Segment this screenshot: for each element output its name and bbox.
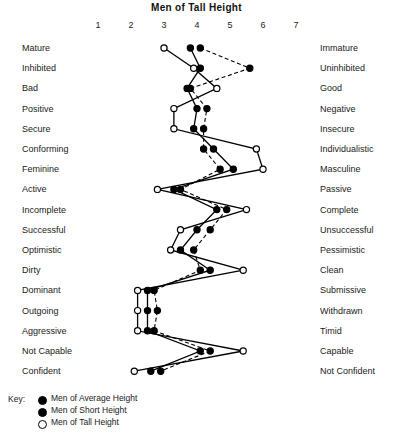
data-point-open (135, 287, 141, 293)
data-point-open (191, 65, 197, 71)
data-point-filled (171, 186, 177, 192)
legend-marker-filled-circle-short-icon (38, 408, 47, 417)
data-point-open (161, 45, 167, 51)
data-point-filled (197, 267, 203, 273)
data-point-open (154, 186, 160, 192)
semantic-differential-plot (0, 0, 393, 392)
data-point-filled (207, 267, 213, 273)
data-point-filled (201, 126, 207, 132)
data-point-open (168, 247, 174, 253)
data-point-filled (154, 308, 160, 314)
legend-label: Men of Average Height (51, 393, 137, 403)
data-point-filled (204, 106, 210, 112)
data-point-filled (148, 368, 154, 374)
data-point-filled (197, 65, 203, 71)
data-point-open (177, 227, 183, 233)
data-point-filled (207, 348, 213, 354)
data-point-open (135, 328, 141, 334)
data-point-filled (187, 85, 193, 91)
data-point-open (253, 146, 259, 152)
data-point-filled (187, 45, 193, 51)
data-point-filled (224, 207, 230, 213)
data-point-filled (158, 368, 164, 374)
legend-marker-filled-circle-icon (38, 396, 47, 405)
data-point-open (135, 308, 141, 314)
data-point-open (171, 106, 177, 112)
data-point-filled (197, 45, 203, 51)
data-point-filled (144, 328, 150, 334)
data-point-filled (144, 308, 150, 314)
data-point-filled (230, 166, 236, 172)
data-point-filled (207, 227, 213, 233)
data-point-open (240, 348, 246, 354)
data-point-filled (214, 207, 220, 213)
data-point-filled (177, 247, 183, 253)
legend-label: Men of Short Height (51, 405, 127, 415)
legend-title: Key: (8, 394, 25, 404)
data-point-filled (177, 186, 183, 192)
data-point-open (240, 267, 246, 273)
data-point-filled (201, 146, 207, 152)
legend: Key: Men of Average HeightMen of Short H… (8, 392, 268, 435)
data-point-filled (247, 65, 253, 71)
data-point-open (171, 126, 177, 132)
data-point-filled (217, 166, 223, 172)
data-point-open (131, 368, 137, 374)
legend-marker-open-circle-icon (38, 420, 47, 429)
data-point-open (214, 85, 220, 91)
data-point-filled (151, 287, 157, 293)
data-point-filled (197, 348, 203, 354)
data-point-filled (144, 287, 150, 293)
legend-label: Men of Tall Height (51, 417, 119, 427)
data-point-open (260, 166, 266, 172)
data-point-filled (191, 247, 197, 253)
data-point-filled (151, 328, 157, 334)
data-point-open (243, 207, 249, 213)
data-point-filled (194, 106, 200, 112)
data-point-filled (194, 227, 200, 233)
data-point-filled (210, 146, 216, 152)
data-point-filled (191, 126, 197, 132)
series-line (154, 48, 250, 371)
